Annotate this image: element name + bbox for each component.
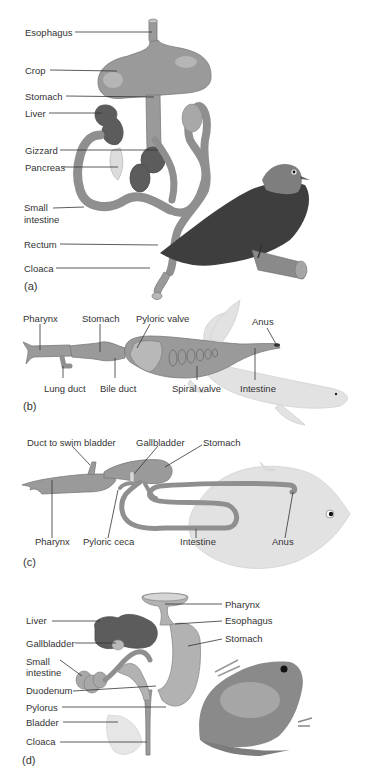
label-d-stomach: Stomach — [225, 633, 263, 644]
label-d-bladder: Bladder — [26, 717, 59, 728]
label-c-intestine: Intestine — [180, 536, 216, 547]
label-c-duct-to-swim-bladder: Duct to swim bladder — [27, 437, 116, 448]
label-c-pharynx: Pharynx — [35, 536, 70, 547]
label-c-stomach: Stomach — [203, 437, 241, 448]
label-d-small-intestine-line1: Small — [26, 656, 50, 667]
label-b-intestine: Intestine — [240, 383, 276, 394]
label-a-stomach: Stomach — [25, 91, 63, 102]
label-a-small-intestine-line2: intestine — [24, 214, 59, 225]
label-d-duodenum: Duodenum — [26, 685, 72, 696]
label-a-cloaca: Cloaca — [24, 263, 54, 274]
label-a-esophagus: Esophagus — [25, 27, 73, 38]
label-b-spiral-valve: Spiral valve — [172, 383, 221, 394]
label-c-pyloric-ceca: Pyloric ceca — [83, 536, 134, 547]
panel-d-frog-digestive-tract — [52, 593, 312, 756]
panel-letter-b: (b) — [23, 400, 36, 412]
label-d-cloaca: Cloaca — [26, 736, 56, 747]
label-b-anus: Anus — [252, 316, 274, 327]
label-a-liver: Liver — [25, 108, 46, 119]
label-d-esophagus: Esophagus — [225, 615, 273, 626]
label-a-pancreas: Pancreas — [25, 162, 65, 173]
label-c-gallbladder: Gallbladder — [136, 437, 185, 448]
panel-letter-d: (d) — [22, 754, 35, 766]
label-d-small-intestine-line2: intestine — [26, 667, 61, 678]
label-b-stomach: Stomach — [82, 313, 120, 324]
label-a-small-intestine-line1: Small — [24, 202, 48, 213]
label-b-lung-duct: Lung duct — [44, 383, 86, 394]
label-b-bile-duct: Bile duct — [100, 383, 136, 394]
label-d-pharynx: Pharynx — [225, 599, 260, 610]
label-a-crop: Crop — [25, 65, 46, 76]
label-a-rectum: Rectum — [24, 239, 57, 250]
panel-letter-c: (c) — [23, 556, 36, 568]
panel-a-bird-digestive-tract — [49, 19, 310, 300]
label-b-pyloric-valve: Pyloric valve — [136, 313, 189, 324]
label-d-pylorus: Pylorus — [26, 702, 58, 713]
panel-letter-a: (a) — [24, 280, 37, 292]
label-a-gizzard: Gizzard — [25, 145, 58, 156]
label-b-pharynx: Pharynx — [23, 313, 58, 324]
panel-c-bony-fish-digestive-tract — [22, 445, 350, 568]
label-d-gallbladder: Gallbladder — [26, 638, 75, 649]
label-d-liver: Liver — [26, 615, 47, 626]
label-c-anus: Anus — [272, 536, 294, 547]
frog-illustration — [199, 660, 312, 756]
